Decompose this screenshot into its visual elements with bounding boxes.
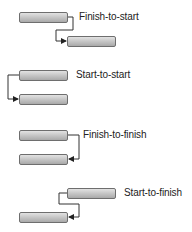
connector-finish-to-finish	[67, 135, 79, 159]
dependency-label-finish-to-finish: Finish-to-finish	[83, 129, 146, 140]
task-bar-predecessor	[19, 12, 68, 23]
connector-start-to-start	[8, 75, 19, 99]
dependency-label-start-to-finish: Start-to-finish	[124, 187, 182, 198]
dependency-label-start-to-start: Start-to-start	[76, 69, 130, 80]
task-bar-successor	[19, 154, 68, 165]
task-bar-predecessor	[67, 188, 116, 199]
task-bar-predecessor	[19, 130, 68, 141]
task-bar-successor	[19, 212, 68, 223]
task-bar-successor	[19, 94, 68, 105]
task-bar-predecessor	[19, 70, 68, 81]
task-bar-successor	[67, 36, 116, 47]
dependency-label-finish-to-start: Finish-to-start	[79, 11, 139, 22]
